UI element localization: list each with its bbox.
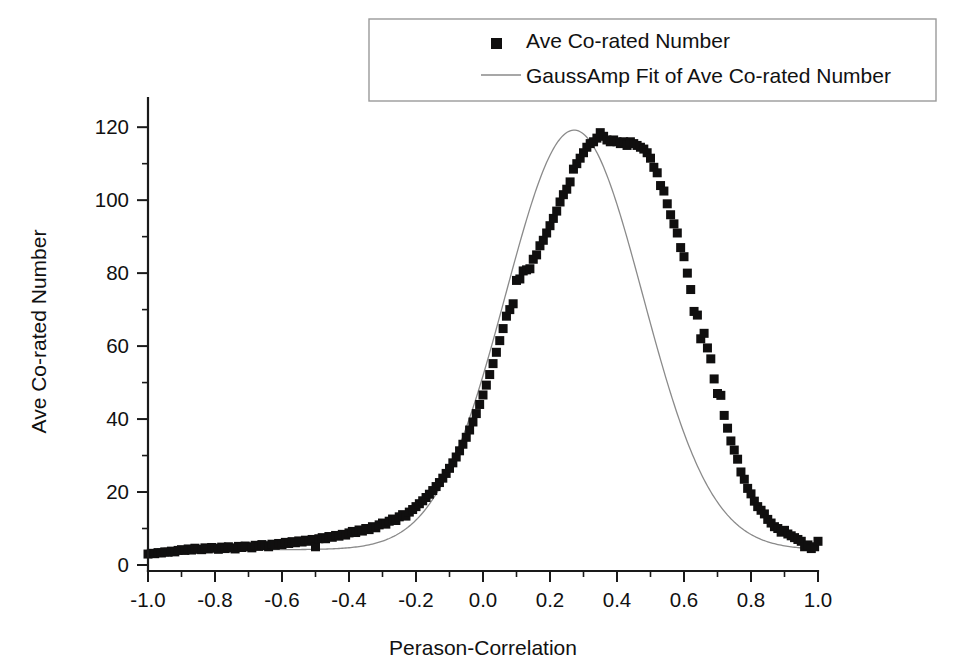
legend-square-marker-icon — [491, 38, 502, 49]
x-tick-label: 0.4 — [603, 588, 632, 611]
scatter-point — [552, 207, 561, 216]
scatter-point — [726, 436, 735, 445]
x-tick-label: 0.6 — [670, 588, 699, 611]
scatter-point — [492, 348, 501, 357]
scatter-point — [495, 336, 504, 345]
y-axis-title: Ave Co-rated Number — [27, 230, 50, 434]
x-tick-label: -0.8 — [197, 588, 232, 611]
scatter-point — [730, 446, 739, 455]
x-tick-label: -1.0 — [130, 588, 165, 611]
scatter-point — [468, 417, 477, 426]
scatter-point — [566, 177, 575, 186]
x-axis-title: Perason-Correlation — [389, 636, 577, 659]
scatter-point — [311, 542, 320, 551]
scatter-point — [532, 250, 541, 259]
x-tick-label: -0.6 — [264, 588, 299, 611]
scatter-point — [465, 426, 474, 435]
scatter-point — [706, 354, 715, 363]
scatter-point — [683, 269, 692, 278]
scatter-point — [710, 374, 719, 383]
legend: Ave Co-rated Number GaussAmp Fit of Ave … — [369, 19, 936, 101]
scatter-point — [723, 424, 732, 433]
x-tick-label: 1.0 — [804, 588, 833, 611]
x-tick-label: -0.4 — [331, 588, 366, 611]
scatter-point — [740, 475, 749, 484]
scatter-point — [733, 455, 742, 464]
x-tick-label: 0.2 — [536, 588, 565, 611]
y-tick-label: 80 — [106, 261, 129, 284]
scatter-plot-svg: -1.0-0.8-0.6-0.4-0.20.00.20.40.60.81.0 0… — [0, 0, 979, 670]
scatter-point — [472, 409, 481, 418]
scatter-point — [646, 154, 655, 163]
legend-label-series-2: GaussAmp Fit of Ave Co-rated Number — [526, 64, 891, 87]
scatter-point — [676, 243, 685, 252]
y-tick-label: 60 — [106, 334, 129, 357]
scatter-point — [659, 187, 668, 196]
scatter-point — [669, 219, 678, 228]
x-tick-label: 0.0 — [469, 588, 498, 611]
scatter-point — [716, 391, 725, 400]
x-tick-label: 0.8 — [737, 588, 766, 611]
scatter-point — [680, 252, 689, 261]
scatter-point — [663, 199, 672, 208]
scatter-point — [479, 390, 488, 399]
x-tick-label: -0.2 — [398, 588, 433, 611]
scatter-point — [686, 285, 695, 294]
y-tick-label: 40 — [106, 407, 129, 430]
scatter-point — [703, 343, 712, 352]
y-tick-label: 120 — [95, 115, 129, 138]
scatter-point — [489, 359, 498, 368]
scatter-point — [485, 370, 494, 379]
scatter-point — [720, 411, 729, 420]
scatter-point — [653, 168, 662, 177]
scatter-point — [475, 400, 484, 409]
scatter-point — [673, 228, 682, 237]
legend-label-series-1: Ave Co-rated Number — [526, 29, 730, 52]
chart-figure: -1.0-0.8-0.6-0.4-0.20.00.20.40.60.81.0 0… — [0, 0, 979, 670]
scatter-point — [693, 311, 702, 320]
scatter-point — [509, 299, 518, 308]
y-tick-label: 0 — [118, 553, 129, 576]
y-tick-label: 20 — [106, 480, 129, 503]
scatter-point — [666, 210, 675, 219]
scatter-point — [814, 537, 823, 546]
scatter-point — [499, 324, 508, 333]
scatter-point — [525, 264, 534, 273]
scatter-point — [700, 329, 709, 338]
scatter-point — [515, 274, 524, 283]
scatter-point — [482, 381, 491, 390]
y-tick-label: 100 — [95, 188, 129, 211]
